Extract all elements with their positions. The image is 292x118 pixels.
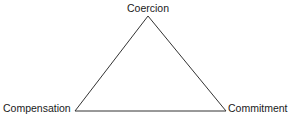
edge-coercion-compensation <box>75 16 148 111</box>
edge-coercion-commitment <box>148 16 226 111</box>
node-label-compensation: Compensation <box>3 103 71 114</box>
node-label-coercion: Coercion <box>127 3 169 14</box>
triangle-diagram <box>0 0 292 118</box>
node-label-commitment: Commitment <box>228 103 288 114</box>
